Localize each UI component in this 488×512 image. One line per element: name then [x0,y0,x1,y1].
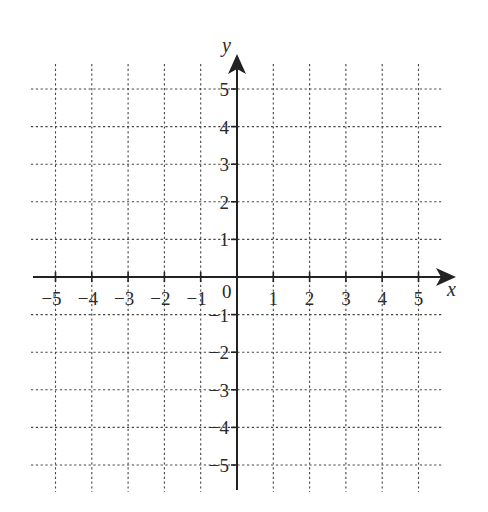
x-tick-label: −3 [114,288,134,309]
x-tick-label: 3 [341,288,351,309]
y-tick-label: 1 [220,229,230,250]
coordinate-plane: −5−4−3−2−11234554321−1−2−3−4−5 x y 0 [0,0,488,512]
x-tick-label: −1 [187,288,207,309]
x-tick-label: −5 [41,288,61,309]
y-tick-label: −2 [209,342,229,363]
y-tick-label: −1 [209,305,229,326]
x-axis-label: x [446,278,456,300]
y-axis-label: y [220,34,231,57]
x-tick-label: 2 [305,288,315,309]
coordinate-plane-svg: −5−4−3−2−11234554321−1−2−3−4−5 x y 0 [0,0,488,512]
y-tick-label: 3 [220,154,230,175]
y-tick-label: 4 [220,117,230,138]
x-tick-label: 1 [269,288,279,309]
x-tick-label: 5 [414,288,424,309]
axes [33,54,456,490]
y-tick-label: 2 [220,192,230,213]
y-tick-label: −5 [209,455,229,476]
x-tick-label: −4 [78,288,99,309]
x-tick-label: 4 [377,288,387,309]
y-tick-label: −3 [209,380,229,401]
y-tick-label: −4 [209,417,230,438]
y-tick-label: 5 [220,79,230,100]
origin-label: 0 [222,281,232,302]
x-tick-label: −2 [150,288,170,309]
